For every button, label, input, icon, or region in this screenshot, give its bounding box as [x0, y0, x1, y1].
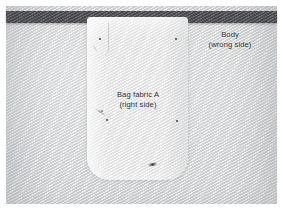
label-bag-fabric-line2: (right side): [97, 100, 179, 110]
label-bag-fabric-line1: Bag fabric A: [97, 90, 179, 100]
label-body: Body (wrong side): [197, 30, 263, 49]
label-body-line2: (wrong side): [197, 40, 263, 50]
label-bag-fabric-a: Bag fabric A (right side): [97, 90, 179, 109]
label-body-line1: Body: [197, 30, 263, 40]
instruction-photo: Body (wrong side) Bag fabric A (right si…: [0, 0, 283, 215]
